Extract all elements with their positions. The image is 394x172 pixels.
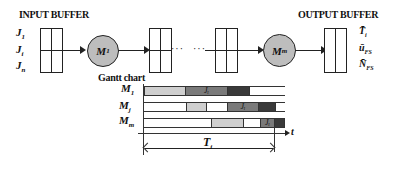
gantt-segment [206,103,228,111]
gantt-machine-label: Mm [119,114,134,129]
flow-line-4 [205,50,262,51]
gantt-segment [274,119,284,127]
gantt-segment [275,103,286,111]
gantt-segment [144,103,186,111]
span-label: Ti [203,135,212,151]
output-buffer [324,28,347,73]
arrow-icon [80,46,86,54]
gantt-row: Jᵢ [143,86,285,96]
gantt-segment-label: Jᵢ [265,118,270,127]
flow-line-3 [149,50,171,51]
gantt-segment [249,87,286,95]
gantt-segment: Jᵢ [227,103,259,111]
job-label-1: J1 [16,26,25,41]
ellipsis: ··· [171,43,184,54]
metric-mean-tardiness: T̄i [359,25,367,38]
input-buffer-title: INPUT BUFFER [19,9,89,20]
gantt-segment [186,103,207,111]
gantt-segment: Jᵢ [185,87,228,95]
job-label-i: Ji [16,43,23,58]
machine-mm: Mm [263,34,296,67]
axis-arrow-icon [285,130,290,136]
gantt-row: Jᵢ [143,102,285,112]
gantt-segment [144,119,211,127]
ellipsis-2: ··· [193,43,206,54]
gantt-segment [258,103,276,111]
gantt-machine-label: Mj [119,99,131,114]
flow-line-1 [40,50,82,51]
gantt-segment [144,87,186,95]
span-arrow-left-icon [143,143,153,153]
gantt-segment-label: Jᵢ [241,102,246,111]
machine-m1: M1 [87,35,119,67]
job-label-n: Jn [16,59,25,74]
output-buffer-title: OUTPUT BUFFER [298,9,378,20]
time-axis-label: t [291,126,294,137]
gantt-segment-label: Jᵢ [204,86,209,95]
gantt-segment [243,119,261,127]
gantt-machine-label: M1 [121,82,134,97]
gantt-segment [227,87,250,95]
gantt-time-axis [138,133,287,134]
gantt-row: Jᵢ [143,118,285,128]
gantt-segment [211,119,244,127]
gantt-segment: Jᵢ [260,119,275,127]
metric-mean-utilization: ūFS [359,42,372,55]
metric-mean-jobs: N̄FS [359,58,374,71]
